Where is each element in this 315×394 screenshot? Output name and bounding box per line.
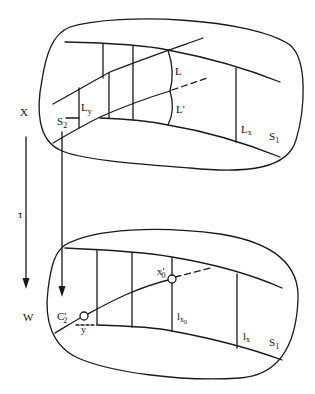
mapping-diagram: X L L' Ly S2 Lx S1 τ W C'2 y x'0 lx0 lx … — [0, 0, 315, 394]
bottom-c2-line — [55, 279, 172, 333]
label-l-x0: lx0 — [177, 310, 187, 325]
top-lower-line-dashed — [172, 78, 207, 90]
label-l-x: lx — [243, 330, 250, 344]
label-C2-prime: C'2 — [57, 310, 67, 325]
point-y-marker — [80, 312, 88, 320]
label-tau: τ — [18, 208, 23, 220]
projection-arrowhead-icon — [59, 286, 66, 297]
top-bottom-curve — [100, 118, 280, 157]
label-x0-prime: x'0 — [157, 265, 165, 280]
bottom-lower-curve — [97, 325, 282, 360]
label-S1-top: S1 — [269, 130, 279, 145]
label-S2: S2 — [57, 115, 67, 130]
label-W: W — [23, 311, 34, 323]
label-Ly: Ly — [81, 101, 92, 116]
point-x0-marker — [168, 275, 176, 283]
label-L-prime: L' — [176, 103, 185, 115]
label-S1-bottom: S1 — [269, 336, 279, 351]
label-X: X — [20, 106, 28, 118]
top-lower-line — [53, 91, 170, 143]
top-arc-L — [168, 50, 172, 91]
bottom-c2-line-dashed — [175, 268, 210, 277]
label-Lx: Lx — [241, 123, 252, 137]
top-arc-Lprime — [168, 91, 172, 125]
label-y: y — [81, 324, 86, 335]
tau-arrowhead-icon — [23, 278, 30, 289]
label-L: L — [175, 65, 182, 77]
